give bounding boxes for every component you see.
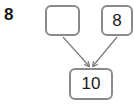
arrow-left-to-whole bbox=[63, 37, 89, 66]
whole-box: 10 bbox=[69, 68, 113, 100]
arrow-right-to-whole bbox=[93, 37, 117, 66]
bond-arrows bbox=[0, 0, 134, 107]
whole-value: 10 bbox=[82, 74, 101, 94]
